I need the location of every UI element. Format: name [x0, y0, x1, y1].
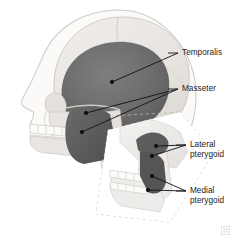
- label-medial-pterygoid: Medial pterygoid: [190, 186, 224, 206]
- anatomy-figure: Temporalis Masseter Lateral pterygoid Me…: [0, 0, 240, 243]
- label-masseter: Masseter: [182, 84, 216, 94]
- publisher-watermark-icon: [221, 226, 230, 235]
- skull-illustration: [0, 0, 240, 243]
- label-temporalis: Temporalis: [182, 48, 222, 58]
- label-lateral-pterygoid: Lateral pterygoid: [190, 140, 224, 160]
